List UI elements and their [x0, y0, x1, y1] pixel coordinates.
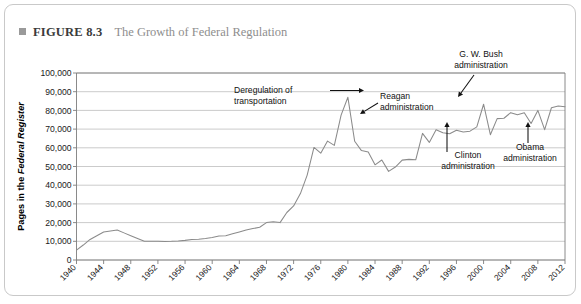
figure-number: FIGURE 8.3 [33, 25, 102, 40]
figure-frame: FIGURE 8.3 The Growth of Federal Regulat… [4, 4, 576, 296]
page-title: The Growth of Federal Regulation [114, 25, 287, 40]
square-bullet-icon [19, 28, 26, 35]
figure-header: FIGURE 8.3 The Growth of Federal Regulat… [19, 25, 287, 40]
